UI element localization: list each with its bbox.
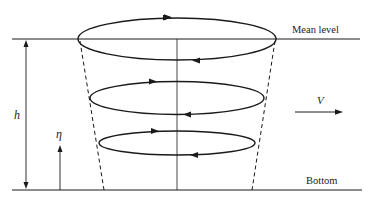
arrow-right-icon xyxy=(149,79,157,85)
arrow-left-icon xyxy=(192,58,200,64)
cone-right-dashed xyxy=(252,41,275,190)
vortex-column-diagram: h η V Mean level Bottom xyxy=(0,0,375,199)
depth-dimension-arrow xyxy=(24,40,29,189)
velocity-label: V xyxy=(317,94,325,106)
cone-left-dashed xyxy=(80,41,104,190)
bottom-label: Bottom xyxy=(306,175,338,186)
arrow-right-icon xyxy=(151,128,159,134)
depth-label: h xyxy=(14,108,20,122)
arrow-right-icon xyxy=(164,14,172,20)
eta-label: η xyxy=(56,127,62,141)
mean-level-label: Mean level xyxy=(292,24,339,35)
arrow-left-icon xyxy=(183,112,191,118)
eta-coordinate-arrow xyxy=(58,145,63,190)
velocity-arrow xyxy=(295,109,343,114)
arrow-left-icon xyxy=(190,152,198,158)
